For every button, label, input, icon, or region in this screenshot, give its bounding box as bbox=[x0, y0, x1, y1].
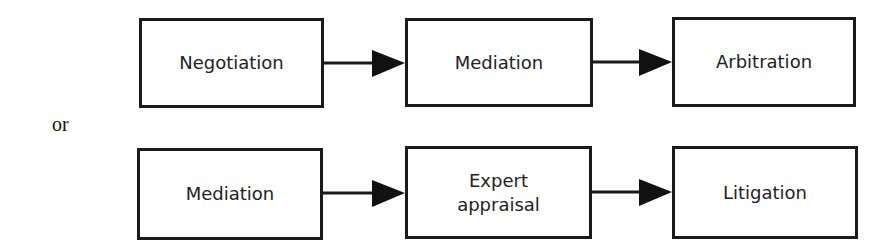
or-connector-label: or bbox=[52, 113, 69, 136]
arrow-mediation-to-arbitration bbox=[592, 49, 672, 76]
arrow-mediation-to-expert-appraisal bbox=[322, 180, 405, 207]
node-label: Negotiation bbox=[179, 51, 284, 74]
node-mediation: Mediation bbox=[405, 18, 593, 107]
arrow-negotiation-to-mediation bbox=[323, 50, 405, 77]
node-label-line2: appraisal bbox=[457, 193, 540, 216]
node-label: Mediation bbox=[186, 182, 275, 205]
node-negotiation: Negotiation bbox=[139, 18, 324, 108]
node-label-line1: Expert bbox=[469, 169, 528, 192]
arrow-expert-appraisal-to-litigation bbox=[591, 179, 672, 206]
node-label: Mediation bbox=[455, 51, 544, 74]
node-arbitration: Arbitration bbox=[672, 17, 856, 107]
node-expert-appraisal: Expert appraisal bbox=[405, 146, 592, 239]
node-label: Arbitration bbox=[716, 50, 812, 73]
node-mediation-alt: Mediation bbox=[137, 148, 323, 240]
node-litigation: Litigation bbox=[672, 146, 858, 239]
node-label: Litigation bbox=[723, 181, 807, 204]
